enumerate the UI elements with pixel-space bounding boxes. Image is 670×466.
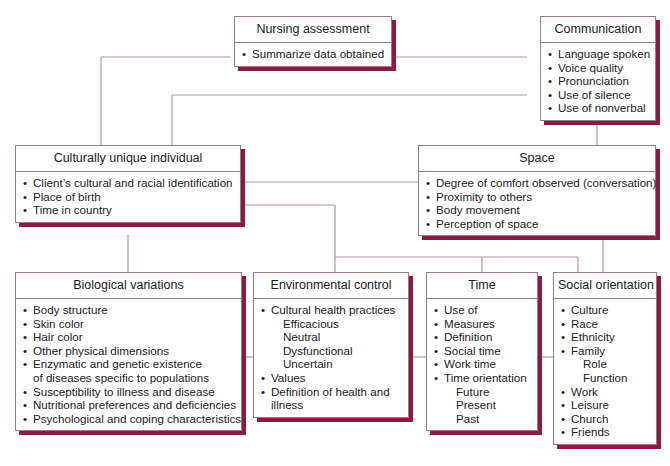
- list-item: •Definition of health and: [261, 385, 402, 399]
- list-item: •Summarize data obtained: [242, 47, 385, 61]
- list-item: •Definition: [434, 330, 531, 344]
- list-item: •Nutritional preferences and deficiencie…: [23, 398, 235, 412]
- bullet-icon: •: [426, 176, 430, 190]
- bullet-icon: •: [548, 88, 552, 102]
- bullet-icon: •: [561, 412, 565, 426]
- node-environmental-control: Environmental control •Cultural health p…: [253, 272, 409, 418]
- bullet-icon: •: [561, 425, 565, 439]
- list-subitem: Future: [434, 385, 531, 399]
- list-item: •Leisure: [561, 398, 650, 412]
- list-item: •Body structure: [23, 303, 235, 317]
- bullet-icon: •: [561, 317, 565, 331]
- list-item-continuation: of diseases specific to populations: [23, 371, 235, 385]
- bullet-icon: •: [23, 412, 27, 426]
- list-item: •Social time: [434, 344, 531, 358]
- list-item: •Friends: [561, 425, 650, 439]
- bullet-icon: •: [426, 217, 430, 231]
- list-subitem: Efficacious: [261, 317, 402, 331]
- list-subitem: Neutral: [261, 330, 402, 344]
- list-item: •Cultural health practices: [261, 303, 402, 317]
- bullet-icon: •: [261, 371, 265, 385]
- list-item: •Susceptibility to illness and disease: [23, 385, 235, 399]
- node-title: Environmental control: [254, 273, 408, 299]
- bullet-icon: •: [426, 203, 430, 217]
- bullet-icon: •: [434, 357, 438, 371]
- bullet-icon: •: [23, 344, 27, 358]
- bullet-icon: •: [426, 190, 430, 204]
- node-social-orientation: Social orientation •Culture •Race •Ethni…: [553, 272, 657, 445]
- bullet-icon: •: [23, 357, 27, 371]
- node-culturally-unique-individual: Culturally unique individual •Client’s c…: [15, 145, 241, 223]
- list-item: •Other physical dimensions: [23, 344, 235, 358]
- list-subitem: Dysfunctional: [261, 344, 402, 358]
- list-subitem: Function: [561, 371, 650, 385]
- list-item: •Church: [561, 412, 650, 426]
- bullet-icon: •: [23, 176, 27, 190]
- node-title: Social orientation: [554, 273, 656, 299]
- node-title: Nursing assessment: [235, 17, 391, 43]
- bullet-icon: •: [23, 190, 27, 204]
- bullet-icon: •: [434, 303, 438, 317]
- list-item: •Race: [561, 317, 650, 331]
- bullet-icon: •: [561, 303, 565, 317]
- list-item: •Place of birth: [23, 190, 234, 204]
- list-subitem: Past: [434, 412, 531, 426]
- list-item: •Language spoken: [548, 47, 649, 61]
- bullet-icon: •: [561, 398, 565, 412]
- bullet-icon: •: [434, 344, 438, 358]
- bullet-icon: •: [23, 330, 27, 344]
- bullet-icon: •: [548, 47, 552, 61]
- list-item: •Degree of comfort observed (conversatio…: [426, 176, 649, 190]
- bullet-icon: •: [434, 317, 438, 331]
- node-nursing-assessment: Nursing assessment •Summarize data obtai…: [234, 16, 392, 67]
- node-title: Biological variations: [16, 273, 241, 299]
- bullet-icon: •: [548, 61, 552, 75]
- list-item: •Psychological and coping characteristic…: [23, 412, 235, 426]
- list-item: •Hair color: [23, 330, 235, 344]
- list-item: •Body movement: [426, 203, 649, 217]
- list-item-continuation: illness: [261, 398, 402, 412]
- list-item: •Skin color: [23, 317, 235, 331]
- bullet-icon: •: [548, 74, 552, 88]
- list-item: •Work: [561, 385, 650, 399]
- list-subitem: Role: [561, 357, 650, 371]
- list-item: •Work time: [434, 357, 531, 371]
- list-item: •Proximity to others: [426, 190, 649, 204]
- node-time: Time •Use of •Measures •Definition •Soci…: [426, 272, 538, 431]
- bullet-icon: •: [23, 203, 27, 217]
- node-space: Space •Degree of comfort observed (conve…: [418, 145, 656, 236]
- list-item: •Culture: [561, 303, 650, 317]
- list-item: •Ethnicity: [561, 330, 650, 344]
- list-item: •Client’s cultural and racial identifica…: [23, 176, 234, 190]
- bullet-icon: •: [561, 344, 565, 358]
- node-title: Time: [427, 273, 537, 299]
- list-item: •Use of nonverbal: [548, 101, 649, 115]
- list-item: •Enzymatic and genetic existence: [23, 357, 235, 371]
- node-biological-variations: Biological variations •Body structure •S…: [15, 272, 242, 431]
- list-item: •Time orientation: [434, 371, 531, 385]
- list-item: •Use of silence: [548, 88, 649, 102]
- bullet-icon: •: [561, 330, 565, 344]
- list-subitem: Uncertain: [261, 357, 402, 371]
- list-item: •Pronunciation: [548, 74, 649, 88]
- bullet-icon: •: [242, 47, 246, 61]
- bullet-icon: •: [261, 303, 265, 317]
- list-item: •Family: [561, 344, 650, 358]
- list-item: •Perception of space: [426, 217, 649, 231]
- bullet-icon: •: [561, 385, 565, 399]
- bullet-icon: •: [261, 385, 265, 399]
- bullet-icon: •: [23, 317, 27, 331]
- list-item: •Time in country: [23, 203, 234, 217]
- node-title: Culturally unique individual: [16, 146, 240, 172]
- list-item: •Voice quality: [548, 61, 649, 75]
- bullet-icon: •: [23, 398, 27, 412]
- bullet-icon: •: [434, 330, 438, 344]
- node-title: Communication: [541, 17, 655, 43]
- bullet-icon: •: [23, 385, 27, 399]
- node-title: Space: [419, 146, 655, 172]
- list-subitem: Present: [434, 398, 531, 412]
- list-item: •Use of: [434, 303, 531, 317]
- bullet-icon: •: [548, 101, 552, 115]
- bullet-icon: •: [23, 303, 27, 317]
- list-item: •Measures: [434, 317, 531, 331]
